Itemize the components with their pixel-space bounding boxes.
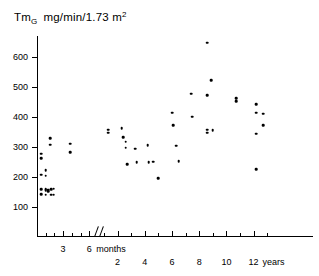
data-point-years [255, 132, 258, 135]
data-point-months [44, 193, 47, 196]
x-axis-tick [131, 233, 132, 236]
x-axis-tick-label-months: 3 [61, 245, 66, 254]
chart-title: TmGmg/min/1.73 m2 [14, 10, 127, 26]
x-axis-tick-label-years: 12 [249, 258, 259, 267]
x-axis-line [37, 236, 313, 237]
x-axis-tick [158, 233, 159, 236]
x-axis-tick [226, 231, 227, 236]
data-point-years [255, 168, 258, 171]
y-axis-tick [32, 147, 37, 148]
y-axis-tick [32, 177, 37, 178]
data-point-years [134, 148, 137, 151]
data-point-months [40, 188, 43, 191]
data-point-months [52, 187, 55, 190]
data-point-years [124, 141, 127, 144]
title-symbol: Tm [14, 11, 31, 23]
data-point-years [148, 161, 151, 164]
x-axis-tick [199, 231, 200, 236]
data-point-months [52, 193, 55, 196]
data-point-years [210, 79, 213, 82]
x-axis-tick-label-years: 10 [221, 258, 231, 267]
x-axis-tick-label-years: 2 [115, 258, 120, 267]
data-point-months [44, 175, 47, 178]
data-point-months [40, 193, 43, 196]
x-axis-tick [118, 231, 119, 236]
data-point-years [172, 124, 175, 127]
data-point-years [120, 127, 123, 130]
data-point-months [49, 137, 52, 140]
data-point-years [206, 41, 209, 44]
y-axis-tick-label: 100 [2, 203, 28, 212]
data-point-years [157, 177, 160, 180]
data-point-years [206, 131, 209, 134]
y-axis-tick [32, 117, 37, 118]
data-point-months [44, 169, 47, 172]
x-axis-tick [145, 231, 146, 236]
title-units: mg/min/1.73 m [43, 11, 122, 23]
x-axis-tick [54, 233, 55, 236]
data-point-years [212, 129, 215, 132]
data-point-months [40, 173, 43, 176]
x-axis-tick-label-years: 4 [142, 258, 147, 267]
scatter-plot-figure: TmGmg/min/1.73 m2 100200300400500600 36m… [0, 0, 319, 276]
data-point-years [135, 161, 138, 164]
y-axis-tick-label: 500 [2, 83, 28, 92]
data-point-years [146, 144, 149, 147]
x-axis-tick [213, 233, 214, 236]
data-point-years [178, 160, 181, 163]
x-axis-tick [63, 231, 64, 236]
data-point-years [107, 131, 110, 134]
data-point-years [126, 163, 129, 166]
x-axis-tick-label-years: 6 [169, 258, 174, 267]
data-point-years [152, 160, 155, 163]
x-axis-unit-months: months [96, 245, 126, 254]
y-axis-tick-label: 400 [2, 113, 28, 122]
x-axis-tick [81, 233, 82, 236]
y-axis-tick [32, 87, 37, 88]
y-axis-tick [32, 57, 37, 58]
x-axis-tick-label-years: 8 [197, 258, 202, 267]
x-axis-tick [104, 233, 105, 236]
data-point-months [69, 142, 72, 145]
y-axis-tick-label: 300 [2, 143, 28, 152]
data-point-years [175, 144, 178, 147]
data-point-years [171, 111, 174, 114]
x-axis-tick [186, 233, 187, 236]
data-point-months [69, 151, 72, 154]
data-point-years [255, 112, 258, 115]
data-point-months [40, 157, 43, 160]
data-point-years [255, 103, 258, 106]
data-point-years [206, 94, 209, 97]
data-point-years [262, 112, 265, 115]
data-point-years [190, 93, 193, 96]
y-axis-line [37, 36, 38, 236]
x-axis-tick [89, 231, 90, 236]
x-axis-tick [240, 233, 241, 236]
data-point-months [47, 190, 50, 193]
y-axis-tick-label: 200 [2, 173, 28, 182]
data-point-months [49, 143, 52, 146]
x-axis-tick [46, 233, 47, 236]
y-axis-tick-label: 600 [2, 53, 28, 62]
x-axis-tick [72, 233, 73, 236]
x-axis-tick-label-months: 6 [87, 245, 92, 254]
x-axis-tick [267, 233, 268, 236]
x-axis-tick [172, 231, 173, 236]
data-point-years [235, 100, 238, 103]
y-axis-tick [32, 207, 37, 208]
data-point-months [40, 152, 43, 155]
x-axis-tick [254, 231, 255, 236]
data-point-years [191, 115, 194, 118]
title-subscript: G [31, 17, 37, 26]
x-axis-unit-years: years [263, 258, 285, 267]
title-superscript: 2 [122, 10, 127, 19]
data-point-years [122, 136, 125, 139]
data-point-years [124, 146, 127, 149]
data-point-years [262, 124, 265, 127]
